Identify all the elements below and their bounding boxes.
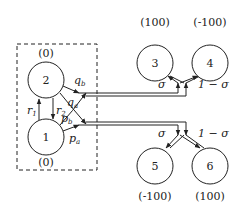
label-one-minus-sigma-top: 1 − σ — [198, 78, 229, 91]
node-2: 2 (0) — [28, 47, 64, 98]
node-5: 5 (-100) — [137, 148, 173, 203]
node-6-value: (100) — [195, 190, 225, 203]
label-pa: pa — [69, 132, 80, 146]
node-2-label: 2 — [43, 74, 50, 87]
node-4-label: 4 — [207, 57, 214, 70]
node-3: 3 (100) — [137, 16, 173, 81]
node-5-label: 5 — [152, 160, 159, 173]
node-3-label: 3 — [152, 57, 159, 70]
node-4: 4 (-100) — [192, 16, 228, 81]
node-2-value: (0) — [38, 47, 54, 60]
node-4-value: (-100) — [193, 16, 226, 29]
node-1-label: 1 — [43, 131, 50, 144]
node-6: 6 (100) — [192, 148, 228, 203]
edge-top-line-2 — [86, 83, 186, 96]
node-1-value: (0) — [38, 156, 54, 169]
edge-qb-arrow — [63, 86, 79, 93]
label-sigma-top: σ — [158, 78, 166, 91]
node-1: 1 (0) — [28, 119, 64, 169]
label-qa: qa — [67, 96, 78, 110]
node-3-value: (100) — [140, 16, 170, 29]
edge-bottom-line-2 — [86, 122, 186, 135]
diagram-canvas: 2 (0) 1 (0) 3 (100) 4 (-100) 5 (-100) 6 … — [0, 0, 241, 213]
label-sigma-bottom: σ — [158, 127, 166, 140]
label-qb: qb — [74, 74, 86, 88]
edge-one-minus-sigma-to-6 — [180, 135, 200, 148]
label-one-minus-sigma-bottom: 1 − σ — [198, 127, 229, 140]
label-r1: r1 — [27, 104, 37, 118]
label-pb: pb — [61, 112, 73, 126]
node-6-label: 6 — [207, 160, 214, 173]
node-5-value: (-100) — [138, 190, 171, 203]
